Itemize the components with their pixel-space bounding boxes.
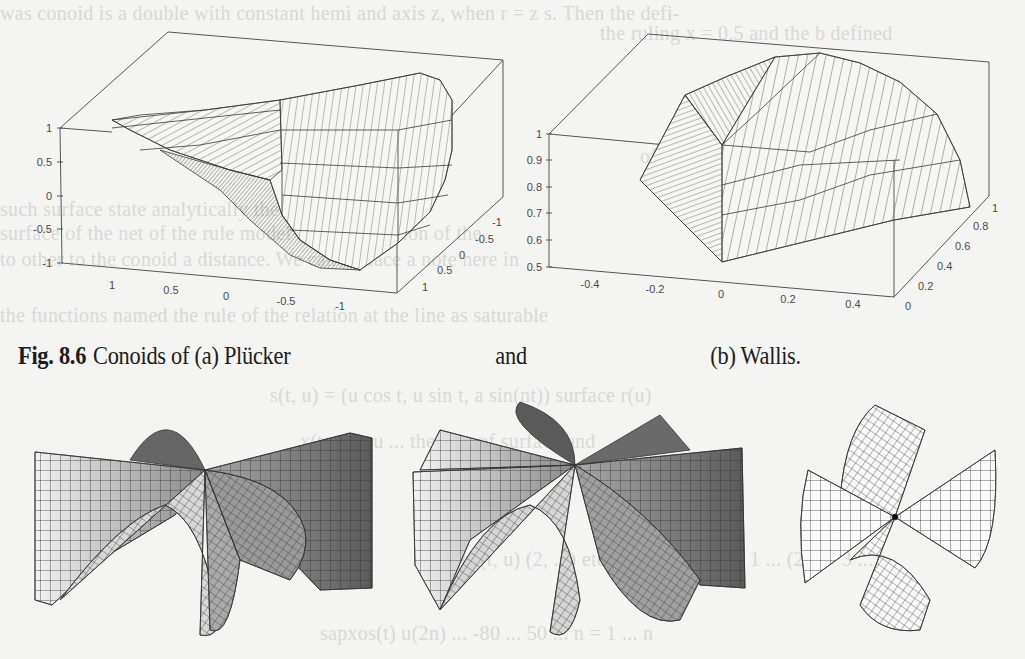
petal-surface-multifold [413,402,745,635]
bottom-surfaces [0,0,1025,659]
petal-surface-2fold [35,430,372,636]
wire-saddle-surface [801,405,996,631]
